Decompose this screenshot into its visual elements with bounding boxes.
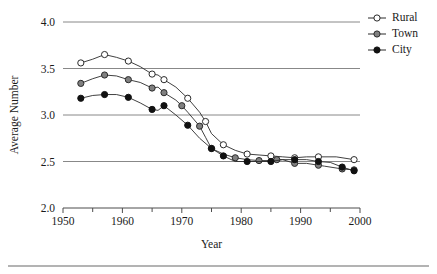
datapoint-town-1957 [101, 72, 107, 78]
datapoint-city-1997 [339, 164, 345, 170]
datapoint-town-1973 [197, 123, 203, 129]
datapoint-rural-1967 [161, 77, 167, 83]
datapoint-city-1985 [268, 158, 274, 164]
datapoint-city-1957 [101, 91, 107, 97]
datapoint-town-1986 [274, 157, 280, 163]
legend-item-city[interactable]: City [368, 43, 412, 56]
datapoint-rural-1971 [185, 95, 191, 101]
xtick-label-1980: 1980 [230, 215, 253, 227]
series-line-town [81, 75, 354, 170]
datapoint-city-1993 [315, 158, 321, 164]
series-line-rural [81, 55, 354, 160]
xtick-label-1990: 1990 [289, 215, 312, 227]
chart-figure: 2.02.53.03.54.0195019601970198019902000Y… [0, 0, 437, 274]
datapoint-town-1961 [125, 77, 131, 83]
legend-marker-open-circle [374, 15, 380, 21]
line-chart: 2.02.53.03.54.0195019601970198019902000Y… [0, 0, 437, 274]
legend-label-rural: Rural [392, 11, 418, 23]
datapoint-town-1983 [256, 157, 262, 163]
datapoint-city-1971 [185, 122, 191, 128]
legend-label-city: City [392, 43, 412, 56]
xtick-label-1950: 1950 [52, 215, 75, 227]
legend-item-rural[interactable]: Rural [368, 11, 418, 23]
ytick-label-2.5: 2.5 [41, 156, 56, 168]
datapoint-rural-1953 [78, 60, 84, 66]
legend-item-town[interactable]: Town [368, 27, 418, 39]
legend-marker-gray-circle [374, 31, 380, 37]
datapoint-rural-1999 [351, 157, 357, 163]
datapoint-rural-1961 [125, 58, 131, 64]
xtick-label-1970: 1970 [170, 215, 193, 227]
datapoint-town-1970 [179, 103, 185, 109]
datapoint-city-1975 [208, 145, 214, 151]
datapoint-city-1999 [351, 168, 357, 174]
datapoint-rural-1965 [149, 71, 155, 77]
datapoint-rural-1974 [202, 118, 208, 124]
datapoint-town-1965 [149, 85, 155, 91]
datapoint-rural-1981 [244, 151, 250, 157]
legend-marker-black-circle [374, 47, 380, 53]
datapoint-city-1967 [161, 103, 167, 109]
datapoint-city-1977 [220, 153, 226, 159]
xtick-label-1960: 1960 [111, 215, 134, 227]
datapoint-rural-1957 [101, 51, 107, 57]
datapoint-city-1961 [125, 94, 131, 100]
datapoint-city-1981 [244, 158, 250, 164]
x-axis-title: Year [201, 238, 222, 250]
ytick-label-3.0: 3.0 [41, 109, 56, 121]
ytick-label-4.0: 4.0 [41, 16, 56, 28]
y-axis-title: Average Number [8, 76, 21, 155]
datapoint-town-1953 [78, 80, 84, 86]
series-line-city [81, 95, 354, 171]
xtick-label-2000: 2000 [349, 215, 372, 227]
datapoint-city-1965 [149, 106, 155, 112]
datapoint-city-1989 [292, 157, 298, 163]
datapoint-rural-1977 [220, 142, 226, 148]
ytick-label-2.0: 2.0 [41, 202, 56, 214]
datapoint-town-1979 [232, 155, 238, 161]
datapoint-city-1953 [78, 95, 84, 101]
legend-label-town: Town [392, 27, 418, 39]
ytick-label-3.5: 3.5 [41, 63, 56, 75]
datapoint-town-1967 [161, 90, 167, 96]
